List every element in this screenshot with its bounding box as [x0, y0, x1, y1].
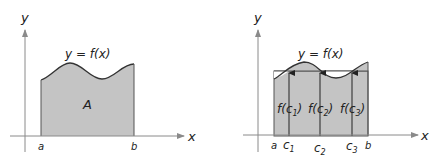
a-label: a — [38, 141, 44, 152]
y-axis-label: y — [20, 10, 29, 25]
x-axis-label: x — [420, 128, 429, 143]
svg-text:f(c3): f(c3) — [340, 102, 365, 118]
diagram: y x y = f(x) A a b y x y = f(x) f(c1) f(… — [0, 0, 432, 163]
curve-label: y = f(x) — [297, 47, 343, 61]
left-panel: y x y = f(x) A a b — [10, 10, 196, 152]
c2-label: c2 — [314, 141, 326, 157]
right-panel: y x y = f(x) f(c1) f(c2) f(c3) a b c1 c2… — [243, 10, 429, 157]
b-label: b — [365, 140, 371, 151]
b-label: b — [131, 141, 137, 152]
c1-label: c1 — [283, 138, 295, 154]
f-c3-label: f(c3) — [340, 102, 365, 118]
a-label: a — [271, 140, 277, 151]
svg-text:f(c2): f(c2) — [308, 102, 333, 118]
f-c1-label: f(c1) — [277, 102, 302, 118]
f-c2-label: f(c2) — [308, 102, 333, 118]
y-axis-label: y — [253, 10, 262, 25]
area-label: A — [82, 97, 92, 112]
c3-label: c3 — [346, 139, 358, 155]
x-axis-label: x — [187, 129, 196, 144]
svg-text:f(c1): f(c1) — [277, 102, 302, 118]
curve-label: y = f(x) — [64, 47, 110, 61]
